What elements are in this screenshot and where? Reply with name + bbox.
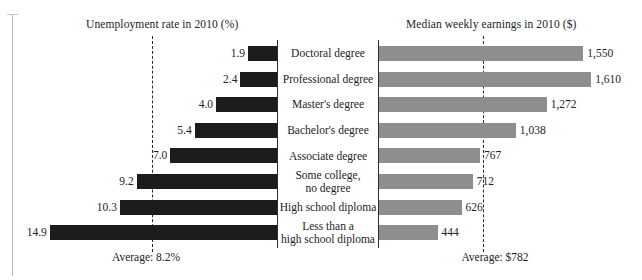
unemployment-bar — [170, 148, 277, 163]
unemployment-bar — [137, 174, 277, 189]
earnings-value-label: 1,610 — [595, 71, 621, 87]
category-label: Associate degree — [281, 143, 375, 168]
right-average-label: Average: $782 — [461, 251, 528, 263]
earnings-bar — [379, 225, 438, 240]
earnings-bar — [379, 148, 480, 163]
chart-row: 1.9Doctoral degree1,550 — [0, 41, 642, 66]
category-label: Bachelor's degree — [281, 118, 375, 143]
category-label: Master's degree — [281, 92, 375, 117]
chart-row: 7.0Associate degree767 — [0, 143, 642, 168]
category-label-line: High school diploma — [280, 201, 376, 214]
chart-row: 2.4Professional degree1,610 — [0, 67, 642, 92]
category-label: High school diploma — [281, 195, 375, 220]
earnings-value-label: 626 — [466, 199, 483, 215]
earnings-bar — [379, 72, 591, 87]
earnings-value-label: 767 — [484, 147, 501, 163]
category-label: Some college,no degree — [281, 169, 375, 194]
category-label-line: no degree — [305, 182, 350, 195]
chart-row: 10.3High school diploma626 — [0, 195, 642, 220]
category-label-line: Doctoral degree — [291, 47, 365, 60]
unemployment-bar — [248, 46, 277, 61]
earnings-bar — [379, 174, 473, 189]
unemployment-bar — [195, 123, 277, 138]
category-label: Less than ahigh school diploma — [281, 220, 375, 245]
earnings-value-label: 1,272 — [551, 96, 577, 112]
unemployment-value-label: 5.4 — [177, 122, 191, 138]
earnings-value-label: 712 — [477, 173, 494, 189]
chart-row: 9.2Some college,no degree712 — [0, 169, 642, 194]
category-label-line: Bachelor's degree — [287, 124, 369, 137]
earnings-value-label: 444 — [442, 224, 459, 240]
earnings-value-label: 1,038 — [520, 122, 546, 138]
unemployment-value-label: 9.2 — [119, 173, 133, 189]
earnings-value-label: 1,550 — [587, 45, 613, 61]
category-label-line: Less than a — [302, 220, 354, 233]
unemployment-bar — [216, 97, 277, 112]
category-label-line: Professional degree — [283, 73, 373, 86]
unemployment-value-label: 1.9 — [231, 45, 245, 61]
category-label-line: high school diploma — [281, 233, 375, 246]
unemployment-bar — [240, 72, 277, 87]
unemployment-value-label: 7.0 — [153, 147, 167, 163]
category-label: Professional degree — [281, 67, 375, 92]
earnings-bar — [379, 46, 583, 61]
earnings-bar — [379, 200, 462, 215]
unemployment-value-label: 4.0 — [199, 96, 213, 112]
earnings-bar — [379, 97, 547, 112]
right-panel-title: Median weekly earnings in 2010 ($) — [406, 18, 576, 30]
chart-row: 5.4Bachelor's degree1,038 — [0, 118, 642, 143]
left-average-label: Average: 8.2% — [112, 251, 180, 263]
chart-row: 14.9Less than ahigh school diploma444 — [0, 220, 642, 245]
unemployment-value-label: 2.4 — [223, 71, 237, 87]
category-label-line: Some college, — [295, 169, 360, 182]
unemployment-bar — [50, 225, 277, 240]
left-panel-title: Unemployment rate in 2010 (%) — [86, 18, 238, 30]
chart-row: 4.0Master's degree1,272 — [0, 92, 642, 117]
page-edge-tick — [7, 14, 18, 15]
unemployment-value-label: 14.9 — [27, 224, 47, 240]
unemployment-bar — [120, 200, 277, 215]
category-label-line: Master's degree — [292, 98, 364, 111]
education-pays-chart: Unemployment rate in 2010 (%) Median wee… — [0, 0, 642, 280]
earnings-bar — [379, 123, 516, 138]
category-label-line: Associate degree — [289, 150, 367, 163]
unemployment-value-label: 10.3 — [97, 199, 117, 215]
category-label: Doctoral degree — [281, 41, 375, 66]
